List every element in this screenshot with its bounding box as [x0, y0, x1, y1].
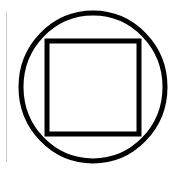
outer-circle [21, 13, 165, 161]
inscribed-square [47, 41, 139, 134]
circle-with-inscribed-square-diagram [0, 0, 172, 172]
